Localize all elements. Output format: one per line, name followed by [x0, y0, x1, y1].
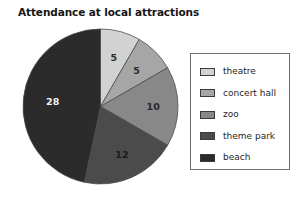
legend: theatreconcert hallzootheme parkbeach	[190, 53, 290, 170]
pie-value-label-zoo: 10	[147, 101, 161, 112]
legend-item-concert-hall[interactable]: concert hall	[200, 83, 289, 105]
pie-plot-area: 55101228	[16, 22, 186, 192]
pie-chart-figure: Attendance at local attractions 55101228…	[0, 0, 304, 198]
legend-item-label: theme park	[223, 132, 275, 141]
legend-item-label: beach	[223, 153, 250, 162]
pie-slice-beach[interactable]	[23, 29, 101, 182]
legend-swatch-icon	[200, 68, 215, 76]
legend-item-theme-park[interactable]: theme park	[200, 126, 289, 148]
pie-value-label-beach: 28	[46, 96, 60, 107]
legend-swatch-icon	[200, 111, 215, 119]
pie-value-label-concert-hall: 5	[133, 65, 140, 76]
legend-item-beach[interactable]: beach	[200, 147, 289, 169]
legend-item-theatre[interactable]: theatre	[200, 61, 289, 83]
legend-items-list: theatreconcert hallzootheme parkbeach	[191, 54, 289, 169]
legend-item-label: theatre	[223, 67, 256, 76]
legend-item-label: concert hall	[223, 89, 276, 98]
legend-swatch-icon	[200, 132, 215, 140]
pie-value-label-theatre: 5	[110, 52, 117, 63]
legend-swatch-icon	[200, 154, 215, 162]
legend-item-zoo[interactable]: zoo	[200, 104, 289, 126]
legend-swatch-icon	[200, 89, 215, 97]
pie-svg: 55101228	[16, 22, 186, 192]
legend-item-label: zoo	[223, 110, 239, 119]
pie-value-label-theme-park: 12	[115, 149, 128, 160]
chart-title: Attendance at local attractions	[18, 6, 199, 18]
